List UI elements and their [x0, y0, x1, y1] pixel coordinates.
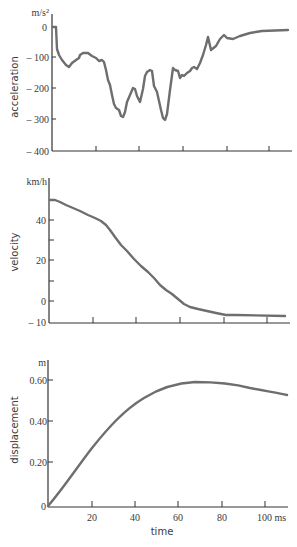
displacement-unit: m	[38, 357, 46, 368]
disp-tick-label: 0.40	[30, 416, 48, 427]
displacement-ylabel: displacement	[9, 396, 20, 463]
time-xlabel: time	[151, 526, 174, 537]
x-tick-label: 20	[87, 512, 97, 523]
acc-tick-label: 0	[42, 22, 47, 33]
disp-tick-label: 0.20	[30, 457, 48, 468]
velocity-ylabel: velocity	[9, 232, 20, 271]
acc-tick-label: – 300	[26, 114, 50, 125]
vel-tick-label: – 10	[28, 317, 47, 328]
acc-tick-label: – 200	[26, 83, 50, 94]
vel-tick-label: 20	[36, 255, 46, 266]
vel-tick-label: 40	[36, 215, 46, 226]
acc-tick-label: – 400	[26, 146, 50, 157]
acc-tick-label: – 100	[26, 52, 50, 63]
disp-tick-label: 0.60	[30, 375, 48, 386]
acceleration-chart: m/s² 0 – 100 – 200 – 300 – 400 accelerat…	[9, 7, 292, 157]
velocity-chart: km/h 40 20 0 – 10 velocity	[9, 176, 290, 328]
vel-tick-label: 0	[41, 296, 46, 307]
velocity-unit: km/h	[26, 176, 47, 187]
displacement-curve	[48, 382, 287, 506]
x-tick-label: 80	[217, 512, 227, 523]
x-tick-label: 40	[130, 512, 140, 523]
disp-tick-label: 0	[41, 501, 46, 512]
x-tick-label: 100 ms	[257, 512, 286, 523]
x-tick-label: 60	[173, 512, 183, 523]
acceleration-ylabel: acceleration	[9, 56, 20, 118]
chart-figure: m/s² 0 – 100 – 200 – 300 – 400 accelerat…	[0, 0, 297, 547]
displacement-chart: m 0.60 0.40 0.20 0 displacement 20 40 60…	[9, 357, 288, 537]
velocity-curve	[50, 200, 285, 316]
acceleration-curve	[53, 27, 288, 120]
acceleration-unit: m/s²	[32, 7, 49, 18]
